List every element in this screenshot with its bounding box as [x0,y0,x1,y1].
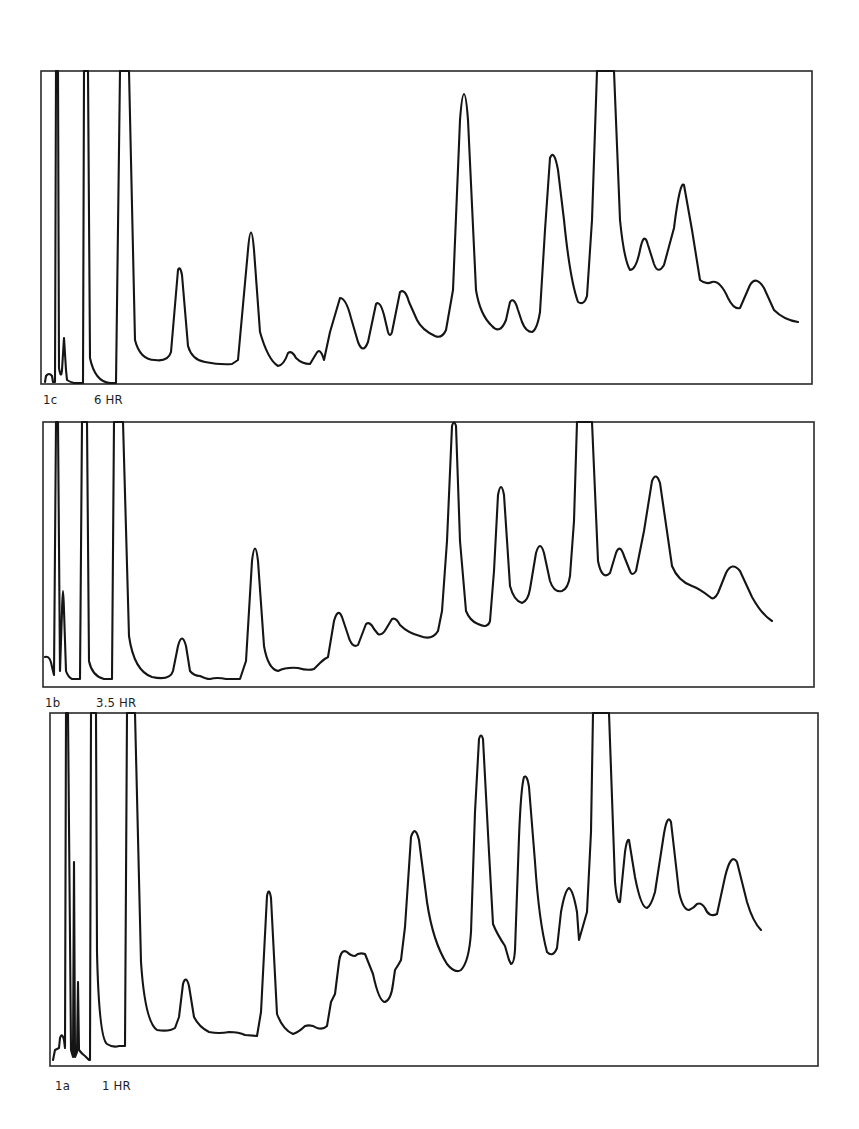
panel-time-label: 3.5 HR [96,695,136,710]
panel-time-label: 6 HR [94,392,123,407]
chromatogram-trace-6hr [45,71,798,383]
panel-time-label: 1 HR [102,1078,131,1093]
chromatogram-figure: 1c 6 HR 1b 3.5 HR 1a 1 HR [0,0,859,1129]
panel-frame [43,422,814,687]
chromatogram-trace-3-5hr [45,422,772,679]
panel-id-label: 1a [55,1078,70,1093]
chromatogram-trace-1hr [53,713,761,1060]
chromatogram-panel-1c [40,70,815,388]
chromatogram-panel-1b [42,421,817,691]
panel-frame [50,713,818,1066]
panel-frame [41,71,812,384]
chromatogram-panel-1a [49,712,824,1072]
panel-id-label: 1c [43,392,57,407]
panel-id-label: 1b [45,695,60,710]
